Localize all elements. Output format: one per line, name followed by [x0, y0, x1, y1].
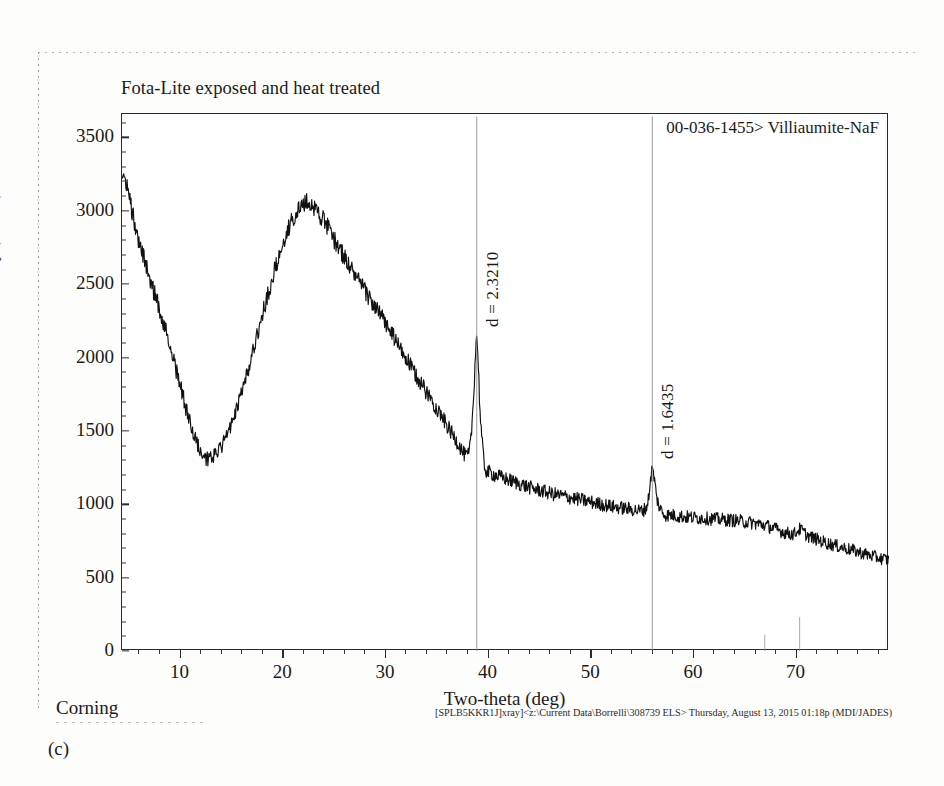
- x-tick-minor: [878, 650, 879, 654]
- y-tick-mark: [122, 430, 129, 431]
- x-tick-minor: [857, 650, 858, 654]
- y-tick-minor: [122, 636, 126, 637]
- x-tick-minor: [529, 650, 530, 654]
- y-tick-minor: [122, 181, 126, 182]
- y-tick-mark: [122, 357, 129, 358]
- x-tick-minor: [364, 650, 365, 654]
- x-axis-tick-labels: 10203040506070: [121, 661, 888, 687]
- y-tick-mark: [122, 504, 129, 505]
- y-axis-tick-labels: 0500100015002000250030003500: [46, 113, 114, 650]
- x-tick-minor: [262, 650, 263, 654]
- x-tick-minor: [241, 650, 242, 654]
- y-tick-minor: [122, 562, 126, 563]
- y-tick-minor: [122, 269, 126, 270]
- y-tick-minor: [122, 240, 126, 241]
- x-tick-minor: [816, 650, 817, 654]
- x-tick-minor: [323, 650, 324, 654]
- peak-d-spacing-annotation: d = 1.6435: [658, 383, 678, 458]
- y-tick-minor: [122, 489, 126, 490]
- y-tick-minor: [122, 548, 126, 549]
- x-tick-mark: [590, 650, 591, 658]
- y-tick-label: 1000: [76, 492, 114, 514]
- plot-area: 00-036-1455> Villiaumite-NaF: [121, 113, 888, 650]
- scanned-page: Fota-Lite exposed and heat treated Inten…: [0, 0, 944, 786]
- y-tick-minor: [122, 416, 126, 417]
- y-tick-label: 3500: [76, 125, 114, 147]
- y-tick-minor: [122, 328, 126, 329]
- y-tick-minor: [122, 445, 126, 446]
- x-tick-label: 70: [786, 661, 805, 683]
- y-tick-minor: [122, 225, 126, 226]
- x-tick-minor: [200, 650, 201, 654]
- x-tick-minor: [405, 650, 406, 654]
- y-tick-label: 0: [105, 639, 115, 661]
- y-tick-minor: [122, 152, 126, 153]
- x-tick-label: 50: [581, 661, 600, 683]
- y-tick-mark: [122, 210, 129, 211]
- y-tick-label: 2500: [76, 272, 114, 294]
- x-tick-minor: [221, 650, 222, 654]
- x-tick-label: 60: [683, 661, 702, 683]
- y-tick-minor: [122, 166, 126, 167]
- x-tick-label: 20: [273, 661, 292, 683]
- figure-caption: (c): [48, 738, 69, 760]
- x-tick-mark: [488, 650, 489, 658]
- x-tick-minor: [549, 650, 550, 654]
- scan-edge-top-decoration: [38, 52, 918, 53]
- x-tick-minor: [138, 650, 139, 654]
- x-tick-minor: [570, 650, 571, 654]
- y-tick-minor: [122, 372, 126, 373]
- x-tick-label: 30: [375, 661, 394, 683]
- diffractogram-trace: [122, 114, 889, 651]
- x-tick-minor: [344, 650, 345, 654]
- y-tick-label: 500: [86, 566, 115, 588]
- x-tick-minor: [303, 650, 304, 654]
- y-tick-minor: [122, 254, 126, 255]
- x-tick-minor: [446, 650, 447, 654]
- y-tick-minor: [122, 460, 126, 461]
- footer-divider: [56, 722, 206, 723]
- y-tick-minor: [122, 592, 126, 593]
- corning-branding-label: Corning: [56, 697, 118, 719]
- x-tick-mark: [693, 650, 694, 658]
- x-tick-mark: [796, 650, 797, 658]
- scan-metadata-footer: [SPLB5KKR1J]xray]<z:\Current Data\Borrel…: [435, 707, 892, 718]
- x-tick-minor: [508, 650, 509, 654]
- y-tick-minor: [122, 606, 126, 607]
- x-tick-label: 40: [478, 661, 497, 683]
- x-tick-minor: [426, 650, 427, 654]
- y-tick-mark: [122, 577, 129, 578]
- x-tick-minor: [837, 650, 838, 654]
- y-tick-minor: [122, 474, 126, 475]
- y-tick-minor: [122, 533, 126, 534]
- y-tick-minor: [122, 298, 126, 299]
- x-tick-minor: [631, 650, 632, 654]
- x-axis-ticks: [121, 650, 888, 660]
- y-tick-minor: [122, 386, 126, 387]
- x-tick-minor: [734, 650, 735, 654]
- y-tick-label: 2000: [76, 346, 114, 368]
- y-tick-minor: [122, 196, 126, 197]
- y-tick-minor: [122, 518, 126, 519]
- y-tick-minor: [122, 401, 126, 402]
- x-tick-mark: [180, 650, 181, 658]
- x-tick-label: 10: [170, 661, 189, 683]
- x-tick-minor: [775, 650, 776, 654]
- x-tick-minor: [611, 650, 612, 654]
- x-tick-mark: [385, 650, 386, 658]
- y-tick-label: 1500: [76, 419, 114, 441]
- y-tick-label: 3000: [76, 199, 114, 221]
- x-tick-minor: [713, 650, 714, 654]
- y-axis-label: Intensity (counts): [0, 192, 2, 311]
- y-tick-minor: [122, 313, 126, 314]
- x-tick-minor: [755, 650, 756, 654]
- x-tick-minor: [159, 650, 160, 654]
- y-tick-mark: [122, 137, 129, 138]
- x-tick-mark: [282, 650, 283, 658]
- scan-edge-left-decoration: [38, 52, 39, 712]
- y-tick-mark: [122, 284, 129, 285]
- chart-title: Fota-Lite exposed and heat treated: [121, 78, 380, 99]
- y-tick-minor: [122, 621, 126, 622]
- y-tick-minor: [122, 122, 126, 123]
- y-tick-minor: [122, 342, 126, 343]
